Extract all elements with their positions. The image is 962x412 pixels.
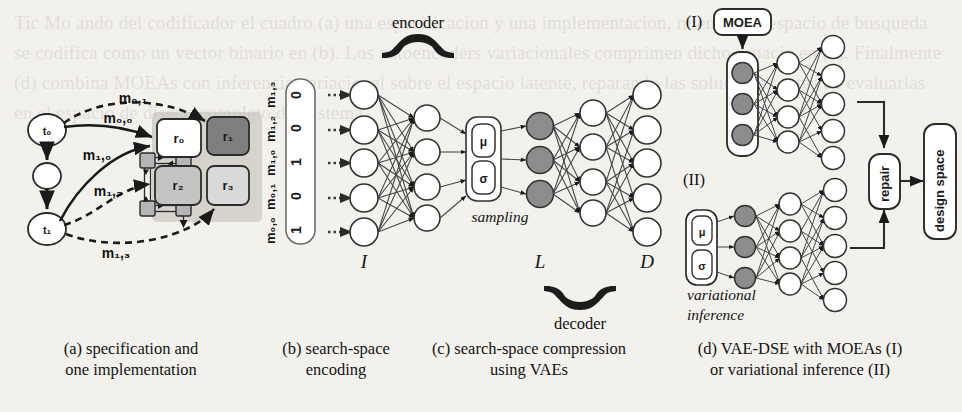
mapping-label-m12: m₁,₂ — [94, 183, 122, 199]
resource-r0-label: r₀ — [174, 131, 185, 146]
caption-a-line1: (a) specification and — [6, 338, 256, 359]
encoder-edges-l2 — [440, 118, 466, 218]
sampling-box: μ σ — [466, 117, 501, 201]
encoder-brace-label: encoder — [392, 13, 445, 32]
caption-c-line2: using VAEs — [404, 359, 654, 380]
latent-layer — [527, 113, 554, 208]
encoding-value-2: 1 — [288, 158, 304, 166]
mapping-label-m00: m₀,₀ — [104, 110, 133, 126]
repair-box[interactable]: repair — [869, 154, 900, 209]
caption-a-line2: one implementation — [6, 359, 256, 380]
sampling-box-II: μ σ — [686, 210, 717, 285]
encoding-label-1: m₀,₁ — [263, 184, 278, 210]
panel-b-encoding: 1 0 1 0 0 m₀,₀ m₀,₁ m₁,₀ m₁,₂ m₁,₃ — [263, 79, 315, 244]
caption-b-line2: encoding — [256, 359, 416, 380]
sigma-label-II: σ — [698, 260, 706, 272]
sampling-to-latent-edges — [501, 126, 526, 194]
resource-r1: r₁ — [207, 117, 249, 155]
mu-label-II: μ — [699, 226, 706, 238]
caption-panel-c: (c) search-space compression using VAEs — [404, 338, 654, 380]
route-II-to-repair — [850, 210, 884, 248]
resource-r3: r₃ — [207, 166, 249, 205]
route-I-to-repair — [857, 102, 884, 148]
caption-panel-a: (a) specification and one implementation — [6, 338, 256, 380]
decoder-output-layer-I — [822, 36, 845, 170]
panel-d-vae-dse: (I) MOEA — [683, 9, 956, 323]
sampling-label: sampling — [472, 208, 529, 225]
decoder-output-layer-II — [824, 179, 847, 312]
encoding-value-0: 1 — [288, 226, 304, 234]
design-space-label: design space — [932, 150, 947, 232]
encoding-label-3: m₁,₂ — [263, 115, 278, 142]
panel-a-specification: r₀ r₁ r₂ r₃ t₀ t₁ — [28, 90, 262, 261]
mapping-label-m13: m₁,₃ — [102, 245, 131, 261]
latent-layer-II — [735, 206, 756, 289]
panel-c-vae: encoder — [328, 13, 661, 333]
task-graph: t₀ t₁ — [28, 114, 66, 245]
variational-inference-label-line2: inference — [687, 306, 744, 323]
caption-d-line1: (d) VAE-DSE with MOEAs (I) — [650, 338, 950, 359]
layer-label-output: D — [639, 251, 654, 272]
task-node-t1-label: t₁ — [43, 224, 52, 236]
decoder-I-edges-l2 — [799, 47, 822, 158]
variant-II-label: (II) — [683, 170, 705, 189]
resource-r2-label: r₂ — [173, 178, 184, 193]
decoder-brace-label: decoder — [554, 314, 607, 333]
decoder-edges-l2 — [606, 95, 634, 232]
moea-box[interactable]: MOEA — [714, 9, 771, 35]
output-layer — [633, 81, 661, 246]
resource-r2: r₂ — [155, 166, 201, 205]
mapping-label-m01: m₀,₁ — [119, 90, 148, 106]
encoding-value-1: 0 — [288, 192, 304, 200]
layer-label-input: I — [360, 251, 369, 272]
latent-layer-I — [732, 63, 753, 146]
design-space-box[interactable]: design space — [924, 124, 956, 239]
encoder-hidden-layer — [414, 105, 440, 231]
task-node-t0-label: t₀ — [43, 125, 52, 137]
caption-d-line2: or variational inference (II) — [650, 359, 950, 380]
encoding-label-0: m₀,₀ — [263, 217, 278, 244]
decoder-hidden-layer — [580, 100, 606, 226]
encoding-label-2: m₁,₀ — [263, 149, 278, 176]
encoder-edges-l1 — [378, 95, 414, 232]
decoder-edges-l1 — [553, 113, 580, 213]
decoder-hidden-layer-II — [779, 193, 801, 295]
caption-panel-d: (d) VAE-DSE with MOEAs (I) or variationa… — [650, 338, 950, 380]
caption-c-line1: (c) search-space compression — [404, 338, 654, 359]
mu-label: μ — [480, 135, 487, 149]
caption-b-line1: (b) search-space — [256, 338, 416, 359]
input-feed-arrows — [328, 95, 352, 232]
resource-r3-label: r₃ — [222, 178, 233, 193]
repair-label: repair — [877, 166, 892, 202]
encoding-value-4: 0 — [288, 91, 304, 99]
variational-inference-label-line1: variational — [687, 286, 756, 303]
input-layer — [350, 81, 378, 246]
resource-r0: r₀ — [157, 119, 201, 157]
sigma-label: σ — [479, 172, 487, 186]
mapping-label-m10: m₁,₀ — [83, 147, 111, 163]
decoder-hidden-layer-I — [777, 52, 799, 153]
resource-r1-label: r₁ — [223, 129, 233, 144]
caption-panel-b: (b) search-space encoding — [256, 338, 416, 380]
moea-label: MOEA — [723, 15, 763, 30]
encoding-label-4: m₁,₃ — [263, 81, 278, 108]
decoder-II-edges-l2 — [801, 190, 824, 300]
variant-I-label: (I) — [686, 12, 702, 31]
encoding-value-3: 0 — [288, 124, 304, 132]
sampling-to-latent-edges-II — [717, 216, 734, 278]
layer-label-latent: L — [534, 251, 546, 272]
decoder-II-edges-l1 — [756, 204, 780, 284]
